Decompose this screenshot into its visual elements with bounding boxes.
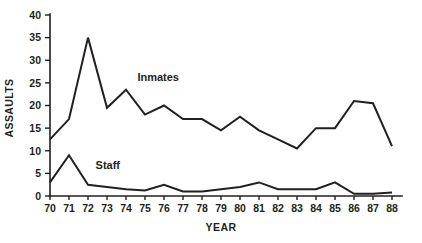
x-tick-label-80: 80 [234,202,246,214]
x-tick-label-78: 78 [196,202,208,214]
y-tick-label-15: 15 [29,122,41,134]
x-tick-label-75: 75 [139,202,151,214]
x-axis-title: YEAR [206,221,237,233]
assaults-by-year-chart: 0510152025303540 70717273747576777879808… [0,0,422,243]
x-tick-label-84: 84 [310,202,322,214]
chart-plot-area: 0510152025303540 70717273747576777879808… [0,0,422,243]
x-tick-label-81: 81 [253,202,265,214]
series-label-inmates: Inmates [137,71,179,83]
x-tick-label-83: 83 [291,202,303,214]
x-tick-label-88: 88 [386,202,398,214]
y-tick-label-10: 10 [29,145,41,157]
series-annotation-group: InmatesStaff [96,71,179,171]
x-tick-label-71: 71 [63,202,75,214]
x-tick-label-85: 85 [329,202,341,214]
x-tick-label-74: 74 [120,202,132,214]
x-tick-label-87: 87 [367,202,379,214]
series-label-staff: Staff [96,159,121,171]
x-tick-label-76: 76 [158,202,170,214]
x-tick-label-79: 79 [215,202,227,214]
x-tick-label-86: 86 [348,202,360,214]
x-axis-group: 70717273747576777879808182838485868788 [44,196,402,214]
x-tick-label-77: 77 [177,202,189,214]
y-tick-label-0: 0 [35,190,41,202]
y-tick-label-40: 40 [29,9,41,21]
y-tick-label-5: 5 [35,167,41,179]
y-axis-group: 0510152025303540 [29,9,50,202]
series-line-inmates [50,38,392,149]
y-axis-title: ASSAULTS [3,78,15,137]
x-axis-tick-labels: 70717273747576777879808182838485868788 [44,202,398,214]
y-tick-label-35: 35 [29,31,41,43]
x-tick-label-73: 73 [101,202,113,214]
y-tick-label-25: 25 [29,77,41,89]
x-tick-label-82: 82 [272,202,284,214]
y-axis-tick-labels: 0510152025303540 [29,9,41,202]
y-tick-label-30: 30 [29,54,41,66]
x-tick-label-72: 72 [82,202,94,214]
x-tick-label-70: 70 [44,202,56,214]
y-tick-label-20: 20 [29,99,41,111]
